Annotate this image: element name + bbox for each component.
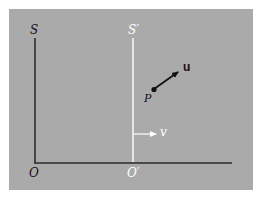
velocity-u-label: u (183, 60, 190, 74)
diagram-stage: S S′ O O′ P u v (0, 0, 266, 198)
frame-s-prime-label: S′ (128, 23, 139, 37)
particle-point (151, 87, 156, 92)
velocity-v-label: v (160, 125, 167, 139)
origin-o-label: O (29, 166, 39, 180)
frame-s-label: S (30, 23, 38, 37)
particle-p-label: P (144, 92, 151, 105)
origin-o-prime-label: O′ (127, 166, 140, 180)
